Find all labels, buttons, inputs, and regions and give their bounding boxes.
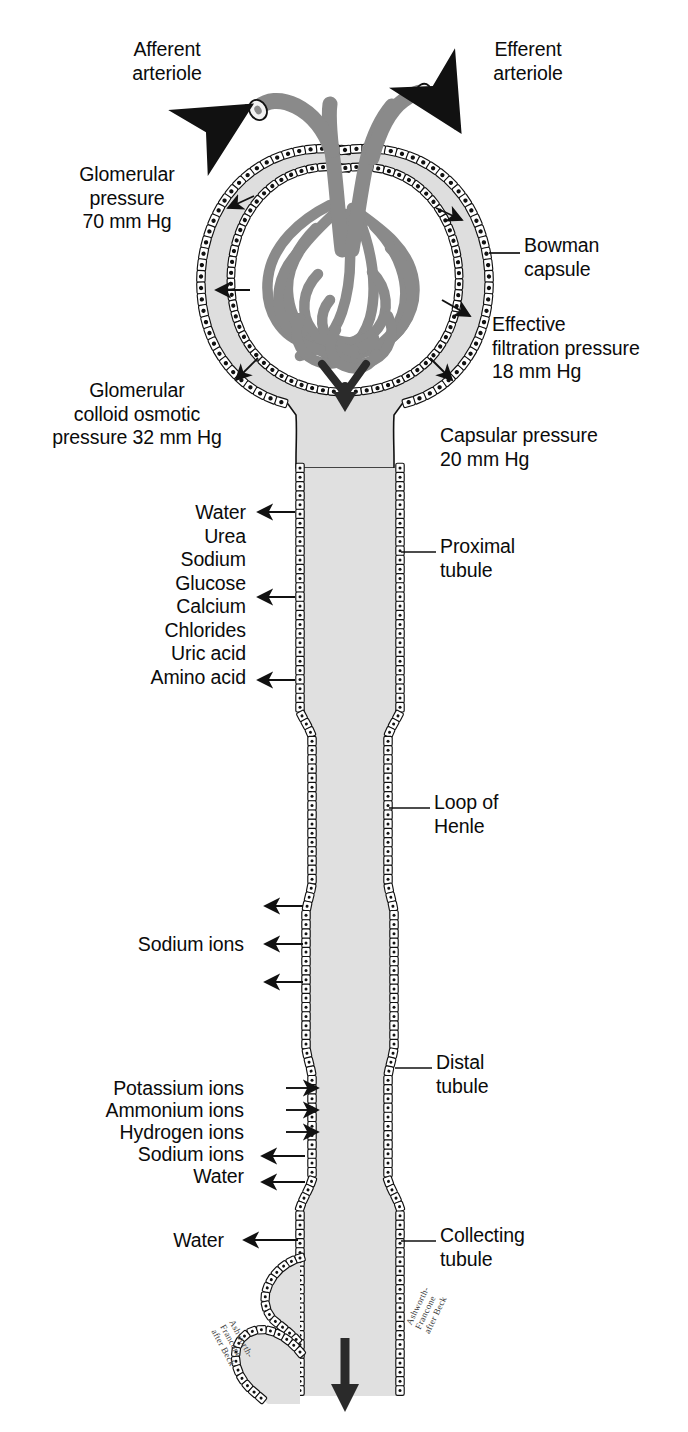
proximal-substance-item: Glucose: [56, 572, 246, 596]
proximal-substance-item: Sodium: [56, 548, 246, 572]
distal-substance-item: Water: [36, 1165, 244, 1187]
label-collecting-tubule: Collecting tubule: [440, 1224, 610, 1271]
label-proximal-tubule: Proximal tubule: [440, 535, 590, 582]
nephron-diagram: Afferent arteriole Efferent arteriole Gl…: [0, 0, 688, 1432]
proximal-substance-item: Amino acid: [56, 666, 246, 690]
proximal-substance-item: Chlorides: [56, 619, 246, 643]
label-water-collecting: Water: [36, 1229, 224, 1253]
label-bowman-capsule: Bowman capsule: [524, 234, 684, 281]
afferent-arteriole-vessel: [246, 97, 332, 150]
distal-substance-list: Potassium ionsAmmonium ionsHydrogen ions…: [36, 1077, 244, 1187]
efferent-flow-arrow: [434, 100, 458, 128]
tubule-lumen: [300, 468, 400, 1396]
label-efferent-arteriole: Efferent arteriole: [428, 38, 628, 85]
proximal-substance-list: WaterUreaSodiumGlucoseCalciumChloridesUr…: [56, 501, 246, 689]
efferent-arteriole-vessel: [372, 81, 434, 158]
distal-substance-item: Sodium ions: [36, 1143, 244, 1165]
afferent-flow-arrow: [213, 107, 248, 129]
proximal-substance-item: Urea: [56, 525, 246, 549]
label-loop-of-henle: Loop of Henle: [434, 791, 584, 838]
proximal-substance-item: Water: [56, 501, 246, 525]
distal-substance-item: Hydrogen ions: [36, 1121, 244, 1143]
label-afferent-arteriole: Afferent arteriole: [72, 38, 262, 85]
label-glomerular-pressure: Glomerular pressure 70 mm Hg: [22, 163, 232, 234]
distal-substance-item: Ammonium ions: [36, 1099, 244, 1121]
proximal-substance-item: Calcium: [56, 595, 246, 619]
label-distal-tubule: Distal tubule: [436, 1051, 586, 1098]
label-effective-filtration-pressure: Effective filtration pressure 18 mm Hg: [492, 313, 688, 384]
distal-substance-item: Potassium ions: [36, 1077, 244, 1099]
proximal-substance-item: Uric acid: [56, 642, 246, 666]
label-capsular-pressure: Capsular pressure 20 mm Hg: [440, 424, 670, 471]
label-sodium-ions-henle: Sodium ions: [36, 933, 244, 957]
label-glomerular-colloid-osmotic-pressure: Glomerular colloid osmotic pressure 32 m…: [8, 379, 266, 450]
